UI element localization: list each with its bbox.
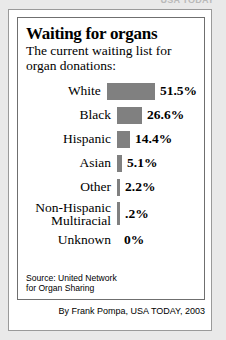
chart-subtitle: The current waiting list for organ donat… — [26, 44, 197, 73]
bar-row: Black26.6% — [25, 103, 197, 127]
bar-row-value: 26.6% — [142, 107, 184, 123]
bar-row-label: Asian — [25, 156, 117, 170]
clipped-headline-band: USA TODAY — [0, 0, 226, 9]
bar-row-label: Other — [25, 180, 117, 194]
bar-row-bar — [117, 107, 142, 124]
bar-row-label: White — [25, 84, 107, 98]
clipped-headline-text: USA TODAY — [161, 0, 214, 5]
bar-row-value: 0% — [117, 232, 144, 248]
bar-row-label: Black — [25, 108, 117, 122]
bar-row: Non-Hispanic Multiracial.2% — [25, 199, 197, 228]
bar-row-bar — [107, 83, 155, 100]
bar-row-label: Hispanic — [25, 132, 117, 146]
bar-row-value: 5.1% — [122, 155, 157, 171]
bar-row: Asian5.1% — [25, 151, 197, 175]
bar-row-label: Non-Hispanic Multiracial — [25, 201, 117, 227]
bar-row-bar — [117, 131, 130, 148]
bar-row: Unknown0% — [25, 228, 197, 252]
byline: By Frank Pompa, USA TODAY, 2003 — [17, 306, 205, 316]
chart-panel: Waiting for organs The current waiting l… — [17, 17, 205, 300]
bar-row: Hispanic14.4% — [25, 127, 197, 151]
page-title: Waiting for organs — [26, 24, 197, 43]
bar-row-value: .2% — [120, 206, 149, 222]
bar-row-value: 14.4% — [130, 131, 172, 147]
bar-row: Other2.2% — [25, 175, 197, 199]
bar-chart-rows: White51.5%Black26.6%Hispanic14.4%Asian5.… — [25, 79, 197, 252]
bar-row-label: Unknown — [25, 233, 117, 247]
infographic-card: Waiting for organs The current waiting l… — [8, 9, 212, 331]
source-note: Source: United Network for Organ Sharing — [26, 273, 117, 293]
bar-row-value: 2.2% — [120, 179, 155, 195]
bar-row: White51.5% — [25, 79, 197, 103]
bar-row-value: 51.5% — [155, 83, 197, 99]
